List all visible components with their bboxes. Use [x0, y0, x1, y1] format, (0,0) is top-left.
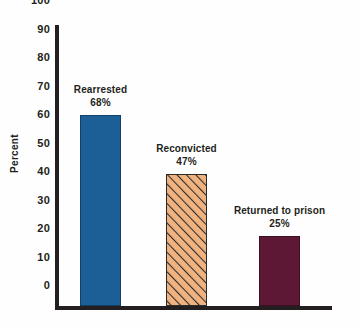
y-tick-80: 80 — [20, 52, 50, 63]
y-axis-tick-labels: 100 90 80 70 60 50 40 30 20 10 0 — [14, 0, 50, 285]
bar-value-reconvicted: 47% — [156, 155, 217, 168]
y-tick-70: 70 — [20, 81, 50, 92]
hatch-pattern-icon — [167, 175, 206, 305]
bar-label-returned-to-prison: Returned to prison — [234, 204, 325, 217]
y-tick-60: 60 — [20, 109, 50, 120]
bar-caption-rearrested: Rearrested 68% — [74, 83, 127, 109]
bar-value-returned-to-prison: 25% — [234, 217, 325, 230]
bar-group-rearrested: Rearrested 68% — [80, 25, 121, 306]
bar-value-rearrested: 68% — [74, 96, 127, 109]
y-tick-30: 30 — [20, 195, 50, 206]
bar-rearrested[interactable] — [80, 115, 121, 306]
y-tick-90: 90 — [20, 24, 50, 35]
bar-label-reconvicted: Reconvicted — [156, 142, 217, 155]
bar-caption-returned-to-prison: Returned to prison 25% — [234, 204, 325, 230]
x-axis-line — [55, 306, 332, 310]
y-tick-10: 10 — [20, 252, 50, 263]
bar-reconvicted[interactable] — [166, 174, 207, 306]
bar-chart: Percent 100 90 80 70 60 50 40 30 20 10 0… — [0, 0, 361, 329]
bar-group-returned-to-prison: Returned to prison 25% — [259, 25, 300, 306]
y-tick-100: 100 — [20, 0, 50, 6]
bar-caption-reconvicted: Reconvicted 47% — [156, 142, 217, 168]
y-tick-0: 0 — [20, 280, 50, 291]
plot-area: Rearrested 68% Reconvicted 47% — [59, 25, 332, 306]
y-tick-40: 40 — [20, 166, 50, 177]
y-tick-20: 20 — [20, 223, 50, 234]
bar-label-rearrested: Rearrested — [74, 83, 127, 96]
bar-returned-to-prison[interactable] — [259, 236, 300, 306]
bar-group-reconvicted: Reconvicted 47% — [166, 25, 207, 306]
y-tick-50: 50 — [20, 138, 50, 149]
